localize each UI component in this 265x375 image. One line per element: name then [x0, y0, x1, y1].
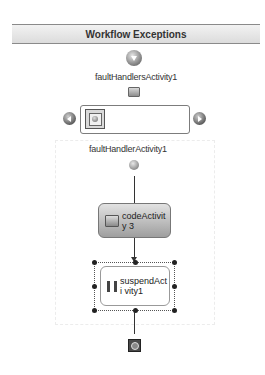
view-title: Workflow Exceptions — [86, 29, 187, 40]
fault-handler-icon — [89, 113, 102, 126]
fault-handlers-folder-icon — [128, 87, 140, 97]
resize-handle[interactable] — [172, 308, 177, 313]
resize-handle[interactable] — [92, 308, 97, 313]
fault-handlers-strip — [80, 105, 190, 134]
next-handler-button[interactable] — [193, 112, 206, 125]
resize-handle[interactable] — [92, 260, 97, 265]
resize-handle[interactable] — [172, 260, 177, 265]
workflow-start-icon — [126, 50, 142, 66]
fault-handlers-label: faultHandlersActivity1 — [95, 72, 177, 82]
code-activity[interactable]: codeActivity 3 — [98, 203, 171, 238]
code-icon — [105, 215, 119, 227]
connector-line — [134, 312, 135, 334]
resize-handle[interactable] — [172, 284, 177, 289]
connector-line — [134, 176, 135, 203]
workflow-exceptions-header: Workflow Exceptions — [12, 24, 260, 44]
handler-entry-icon — [129, 160, 139, 170]
resize-handle[interactable] — [133, 260, 138, 265]
previous-handler-button[interactable] — [63, 112, 76, 125]
suspend-activity-label: suspendActi vity1 — [120, 276, 169, 296]
fault-handler-label: faultHandlerActivity1 — [89, 144, 167, 154]
resize-handle[interactable] — [92, 284, 97, 289]
fault-handler-thumbnail[interactable] — [85, 109, 105, 129]
pause-icon — [107, 281, 117, 292]
code-activity-label: codeActivity 3 — [122, 211, 170, 231]
workflow-end-icon — [128, 339, 141, 352]
suspend-activity[interactable]: suspendActi vity1 — [100, 266, 170, 306]
